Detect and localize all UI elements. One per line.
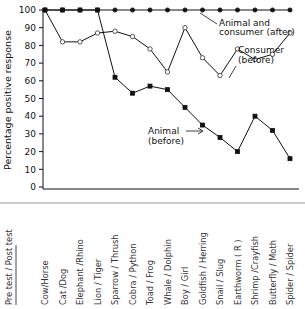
x-axis-title-group: Pre test / Post test bbox=[4, 228, 16, 305]
datapoint-consumer-before-7 bbox=[165, 70, 169, 74]
datapoint-animal-and-consumer-after-6 bbox=[148, 8, 152, 12]
x-category-label-12: Shrimp /Crayfish bbox=[250, 236, 260, 305]
y-tick-label-20: 20 bbox=[25, 147, 37, 157]
y-tick-label-30: 30 bbox=[25, 129, 37, 139]
x-axis-title: Pre test / Post test bbox=[4, 228, 14, 305]
y-tick-label-40: 40 bbox=[25, 111, 37, 121]
datapoint-consumer-before-5 bbox=[130, 34, 134, 38]
datapoint-animal-before-7 bbox=[166, 88, 170, 92]
datapoint-animal-and-consumer-after-4 bbox=[113, 8, 117, 12]
annotation-animal-consumer-after: Animal and consumer (after) bbox=[200, 13, 295, 37]
y-axis-label: Percentage positive response bbox=[2, 30, 13, 170]
datapoint-consumer-before-9 bbox=[200, 56, 204, 60]
x-category-label-5: Cobra / Python bbox=[128, 244, 138, 305]
x-category-label-0: Cow/Horse bbox=[40, 260, 50, 305]
x-category-label-3: Lion / Tiger bbox=[93, 258, 103, 305]
x-category-label-14: Spider / Spider bbox=[285, 243, 295, 305]
datapoint-animal-and-consumer-after-13 bbox=[270, 8, 274, 12]
datapoint-animal-before-0 bbox=[43, 8, 47, 12]
datapoint-animal-before-5 bbox=[131, 91, 135, 95]
y-tick-label-60: 60 bbox=[25, 76, 37, 86]
y-tick-label-100: 100 bbox=[19, 5, 36, 15]
datapoint-animal-and-consumer-after-12 bbox=[253, 8, 257, 12]
datapoint-animal-and-consumer-after-7 bbox=[165, 8, 169, 12]
annotation-consumer-before: Consumer (before) bbox=[229, 45, 284, 78]
datapoint-animal-before-1 bbox=[61, 8, 65, 12]
y-tick-label-10: 10 bbox=[25, 165, 37, 175]
x-category-label-6: Toad / Frog bbox=[145, 260, 155, 306]
datapoint-animal-before-12 bbox=[253, 114, 257, 118]
datapoint-animal-and-consumer-after-8 bbox=[183, 8, 187, 12]
datapoint-consumer-before-3 bbox=[95, 31, 99, 35]
datapoint-consumer-before-6 bbox=[148, 47, 152, 51]
x-category-label-7: Whale / Dolphin bbox=[163, 239, 173, 305]
annot-consumer-line2: (before) bbox=[238, 55, 274, 65]
x-axis-category-labels: Cow/HorseCat /DogElephant /RhinoLion / T… bbox=[40, 232, 295, 306]
x-category-label-8: Boy / Girl bbox=[180, 267, 190, 305]
x-category-label-4: Sparrow / Thrush bbox=[110, 234, 120, 305]
chart-container: Percentage positive response 01020304050… bbox=[0, 0, 305, 309]
annot-animal-line2: (before) bbox=[148, 136, 184, 146]
datapoint-consumer-before-4 bbox=[113, 29, 117, 33]
percentage-positive-response-chart: Percentage positive response 01020304050… bbox=[0, 0, 305, 309]
annot-after-line2: consumer (after) bbox=[219, 27, 295, 37]
y-tick-label-0: 0 bbox=[30, 182, 36, 192]
datapoint-animal-before-8 bbox=[183, 105, 187, 109]
x-category-label-1: Cat /Dog bbox=[58, 269, 68, 305]
datapoint-animal-and-consumer-after-14 bbox=[288, 8, 292, 12]
x-category-label-11: Earthworm ( R ) bbox=[233, 239, 243, 305]
y-tick-label-70: 70 bbox=[25, 58, 37, 68]
annotation-animal-before: Animal (before) bbox=[148, 126, 203, 146]
x-category-label-9: Goldfish / Herring bbox=[198, 232, 208, 305]
datapoint-animal-and-consumer-after-10 bbox=[218, 8, 222, 12]
x-category-label-2: Elephant /Rhino bbox=[75, 239, 85, 305]
datapoint-animal-and-consumer-after-5 bbox=[130, 8, 134, 12]
datapoint-animal-before-9 bbox=[201, 123, 205, 127]
annot-consumer-line1: Consumer bbox=[238, 45, 284, 55]
datapoint-animal-before-13 bbox=[271, 128, 275, 132]
datapoint-animal-before-4 bbox=[113, 75, 117, 79]
y-tick-label-50: 50 bbox=[25, 94, 37, 104]
datapoint-consumer-before-10 bbox=[218, 73, 222, 77]
datapoint-animal-before-11 bbox=[236, 150, 240, 154]
y-tick-label-90: 90 bbox=[25, 23, 37, 33]
datapoint-consumer-before-1 bbox=[60, 40, 64, 44]
datapoint-animal-before-10 bbox=[218, 135, 222, 139]
datapoint-consumer-before-2 bbox=[78, 40, 82, 44]
y-axis-ticks: 0102030405060708090100 bbox=[19, 5, 43, 192]
datapoint-animal-before-14 bbox=[288, 157, 292, 161]
datapoint-animal-and-consumer-after-9 bbox=[200, 8, 204, 12]
x-category-label-10: Snail / Slug bbox=[215, 259, 225, 305]
x-category-label-13: Butterfly / Moth bbox=[268, 240, 278, 305]
datapoint-animal-and-consumer-after-11 bbox=[235, 8, 239, 12]
annot-animal-line1: Animal bbox=[148, 126, 179, 136]
datapoint-consumer-before-8 bbox=[183, 26, 187, 30]
y-tick-label-80: 80 bbox=[25, 41, 37, 51]
datapoint-animal-before-2 bbox=[78, 8, 82, 12]
datapoint-animal-before-6 bbox=[148, 84, 152, 88]
datapoint-animal-before-3 bbox=[96, 8, 100, 12]
